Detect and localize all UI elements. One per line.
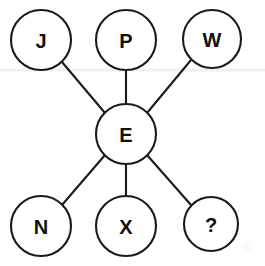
node-j[interactable]: J (11, 10, 71, 70)
edge-e-to-w (147, 60, 191, 113)
edge-e-to-n (62, 155, 105, 205)
node-w[interactable]: W (183, 10, 241, 68)
node-n[interactable]: N (11, 196, 71, 256)
node-w-label: W (203, 29, 222, 51)
corner-smudge-artifact (241, 241, 253, 253)
diagram-canvas: J P W E N X ? (0, 0, 265, 266)
node-p-label: P (119, 30, 132, 52)
node-e[interactable]: E (96, 104, 156, 164)
node-question[interactable]: ? (184, 197, 238, 251)
node-p[interactable]: P (96, 10, 156, 70)
node-question-label: ? (205, 214, 217, 236)
node-n-label: N (34, 216, 48, 238)
node-x[interactable]: X (96, 196, 156, 256)
node-x-label: X (119, 216, 133, 238)
node-j-label: J (35, 30, 46, 52)
edge-e-to-question (147, 155, 191, 205)
node-link-diagram: J P W E N X ? (0, 0, 265, 266)
node-e-label: E (119, 124, 132, 146)
